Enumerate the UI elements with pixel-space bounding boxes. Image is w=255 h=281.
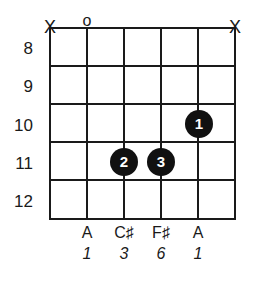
fret-number: 11 [3, 154, 33, 174]
note-label: C♯ [109, 224, 139, 242]
string-line [86, 27, 88, 220]
fret-number: 10 [3, 116, 33, 136]
interval-label: 1 [183, 245, 213, 263]
string-line [234, 27, 236, 220]
fret-number: 12 [3, 192, 33, 212]
fret-line [50, 218, 236, 220]
open-string-marker: o [79, 13, 95, 29]
note-label: A [72, 224, 102, 242]
fret-number: 8 [3, 39, 33, 59]
nut-line [50, 27, 236, 29]
fret-number: 9 [3, 77, 33, 97]
string-line [160, 27, 162, 220]
fret-line [50, 65, 236, 67]
note-label: A [183, 224, 213, 242]
interval-label: 3 [109, 245, 139, 263]
muted-string-marker: X [227, 19, 243, 35]
finger-dot: 3 [147, 148, 175, 176]
muted-string-marker: X [42, 19, 58, 35]
interval-label: 1 [72, 245, 102, 263]
string-line [123, 27, 125, 220]
fret-line [50, 141, 236, 143]
fret-line [50, 179, 236, 181]
interval-label: 6 [146, 245, 176, 263]
finger-dot: 2 [110, 148, 138, 176]
fret-line [50, 103, 236, 105]
string-line [49, 27, 51, 220]
note-label: F♯ [146, 224, 176, 242]
finger-dot: 1 [185, 110, 213, 138]
